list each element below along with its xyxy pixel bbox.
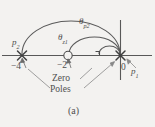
figure-caption: (a)	[68, 106, 79, 116]
label-theta-z1: θz1	[58, 33, 68, 44]
label-pole-p1: p1	[131, 67, 139, 78]
angle-arc-theta-p2	[22, 21, 120, 54]
axis-tick-minus-2: −2	[57, 61, 67, 71]
leader-line-poles-left	[28, 69, 50, 88]
annotation-zero: Zero	[52, 74, 70, 84]
axis-tick-zero: 0	[121, 63, 126, 73]
leader-line-poles-right	[84, 62, 115, 88]
label-pole-p2: p2	[12, 38, 20, 49]
angle-arc-theta-z1	[69, 37, 120, 54]
axis-tick-minus-4: −4	[11, 62, 21, 72]
leader-line-zero	[80, 68, 92, 79]
annotation-poles: Poles	[50, 85, 71, 95]
label-theta-p2: θp2	[79, 17, 90, 28]
figure-container: p2 p1 θp2 θz1 −4 −2 0 Zero Poles (a)	[0, 0, 155, 127]
